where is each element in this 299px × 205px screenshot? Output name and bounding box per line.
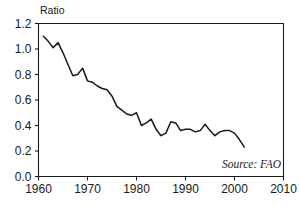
y-axis-tick-labels: 0.00.20.40.60.81.01.2 — [15, 17, 32, 184]
x-axis-tick-label: 1960 — [25, 182, 52, 196]
y-axis-tick-label: 1.2 — [15, 17, 32, 31]
y-axis-tick-label: 0.8 — [15, 68, 32, 82]
x-axis-tick-marks — [39, 177, 284, 181]
y-axis-tick-label: 0.6 — [15, 93, 32, 107]
x-axis-tick-labels: 196019701980199020002010 — [25, 182, 297, 196]
y-axis-tick-label: 0.2 — [15, 144, 32, 158]
plot-border — [39, 24, 284, 177]
data-line-ratio — [43, 36, 244, 147]
x-axis-tick-label: 1970 — [74, 182, 101, 196]
x-axis-tick-label: 2010 — [270, 182, 297, 196]
chart-canvas: 0.00.20.40.60.81.01.2 196019701980199020… — [0, 0, 299, 205]
x-axis-tick-label: 1980 — [123, 182, 150, 196]
y-axis-tick-label: 1.0 — [15, 42, 32, 56]
chart-figure: 0.00.20.40.60.81.01.2 196019701980199020… — [0, 0, 299, 205]
y-axis-tick-label: 0.4 — [15, 119, 32, 133]
source-note: Source: FAO — [222, 158, 282, 170]
x-axis-tick-label: 2000 — [221, 182, 248, 196]
plot-frame — [39, 24, 284, 177]
data-series-group — [43, 36, 244, 147]
x-axis-tick-label: 1990 — [172, 182, 199, 196]
y-axis-title: Ratio — [40, 4, 65, 16]
